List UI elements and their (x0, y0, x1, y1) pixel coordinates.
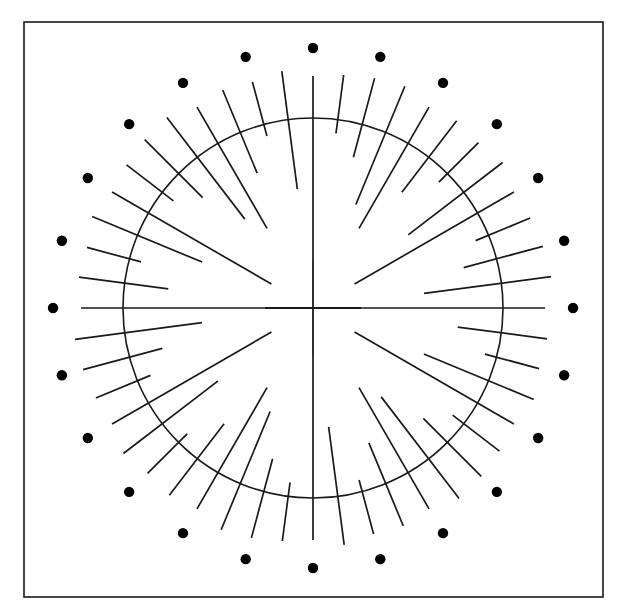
spoke-long-cross-67.5 (356, 86, 405, 204)
spoke-long-cross-2-37.5 (408, 163, 502, 235)
marker-dot-150 (83, 173, 93, 183)
spoke-long-cross-7.5 (424, 277, 551, 294)
spoke-short-outer-22.5 (476, 218, 531, 241)
spoke-long-cross-2-277.5 (329, 427, 345, 545)
spoke-long-inner-240 (197, 388, 267, 509)
marker-dot-105 (241, 52, 251, 62)
marker-dot-210 (83, 433, 93, 443)
marker-dot-270 (308, 563, 318, 573)
marker-dot-330 (533, 433, 543, 443)
marker-dot-45 (492, 119, 502, 129)
marker-dot-315 (492, 487, 502, 497)
marker-dot-300 (438, 528, 448, 538)
marker-dot-30 (533, 173, 543, 183)
marker-dot-345 (559, 370, 569, 380)
marker-dot-285 (375, 554, 385, 564)
spoke-medium-15 (464, 246, 543, 267)
marker-dot-180 (48, 303, 58, 313)
marker-dot-90 (308, 43, 318, 53)
spoke-long-cross-247.5 (221, 411, 270, 529)
spoke-short-outer-2-225 (148, 434, 188, 474)
marker-dot-135 (124, 119, 134, 129)
spoke-long-inner-300 (359, 388, 429, 509)
spoke-long-cross-2-217.5 (123, 381, 217, 453)
marker-dot-195 (57, 370, 67, 380)
spoke-short-outer-322.5 (453, 415, 500, 451)
marker-dot-15 (559, 236, 569, 246)
radial-diagram-svg (0, 0, 626, 615)
spoke-short-outer-202.5 (96, 375, 151, 398)
spoke-short-outer-262.5 (282, 482, 290, 541)
spoke-medium-255 (251, 459, 272, 538)
marker-dot-255 (241, 554, 251, 564)
diagram-canvas (0, 0, 626, 615)
spoke-medium-75 (353, 78, 374, 157)
marker-dot-60 (438, 78, 448, 88)
marker-dot-0 (568, 303, 578, 313)
marker-dot-165 (57, 236, 67, 246)
spoke-long-inner-120 (197, 107, 267, 228)
spoke-long-cross-2-157.5 (92, 217, 202, 263)
spoke-long-cross-2-97.5 (282, 71, 298, 189)
spoke-long-cross-187.5 (75, 323, 202, 340)
spoke-medium-2-232.5 (169, 424, 224, 495)
marker-dot-120 (178, 78, 188, 88)
spoke-long-inner-60 (359, 107, 429, 228)
spoke-short-outer-82.5 (336, 75, 344, 133)
spoke-medium-315 (423, 418, 481, 476)
marker-dot-240 (178, 528, 188, 538)
spoke-short-outer-2-45 (439, 143, 479, 183)
spoke-medium-195 (83, 348, 162, 369)
spoke-long-cross-2-337.5 (424, 354, 534, 400)
center-crosshair-group (265, 260, 361, 356)
spoke-medium-2-52.5 (402, 121, 457, 192)
spoke-short-outer-142.5 (127, 165, 174, 201)
spoke-medium-135 (145, 140, 203, 198)
marker-dot-225 (124, 487, 134, 497)
marker-dot-75 (375, 52, 385, 62)
